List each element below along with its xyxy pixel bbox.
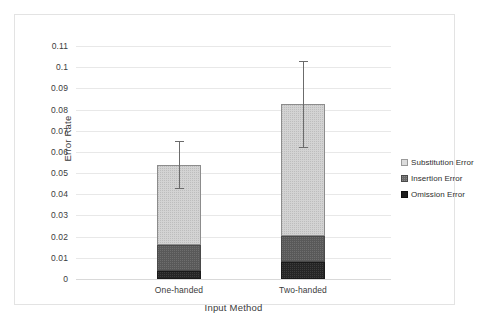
y-tick-label: 0.07 <box>51 126 68 136</box>
gridline <box>76 131 391 132</box>
gridline <box>76 152 391 153</box>
legend-label: Substitution Error <box>411 158 474 167</box>
error-bar-cap-lower <box>175 188 184 189</box>
legend-label: Omission Error <box>411 190 465 199</box>
x-tick-label: One-handed <box>155 285 203 295</box>
legend-swatch-insertion <box>401 175 408 182</box>
bar-segment-insertion <box>281 236 325 262</box>
error-bar-cap-upper <box>299 61 308 62</box>
error-bar-cap-upper <box>175 141 184 142</box>
y-tick-label: 0.04 <box>51 189 68 199</box>
error-bar-stem <box>179 141 180 189</box>
gridline <box>76 88 391 89</box>
legend-swatch-omission <box>401 191 408 198</box>
gridline <box>76 215 391 216</box>
x-axis-title: Input Method <box>76 302 391 313</box>
legend-label: Insertion Error <box>411 174 462 183</box>
y-axis-tick-labels: 00.010.020.030.040.050.060.070.080.090.1… <box>29 46 72 279</box>
gridline <box>76 67 391 68</box>
y-tick-label: 0.08 <box>51 105 68 115</box>
gridline <box>76 46 391 47</box>
y-tick-label: 0.02 <box>51 232 68 242</box>
error-bar-stem <box>303 61 304 148</box>
chart-plot-frame: Error Rate 00.010.020.030.040.050.060.07… <box>14 14 455 305</box>
plot-area <box>76 46 391 279</box>
y-tick-label: 0.05 <box>51 168 68 178</box>
y-tick-label: 0.06 <box>51 147 68 157</box>
y-tick-label: 0.11 <box>52 41 68 51</box>
y-tick-label: 0.03 <box>51 210 68 220</box>
gridline <box>76 237 391 238</box>
gridline <box>76 110 391 111</box>
gridline <box>76 173 391 174</box>
bar-segment-omission <box>157 271 201 279</box>
chart-legend: Substitution ErrorInsertion ErrorOmissio… <box>401 154 479 202</box>
legend-item: Omission Error <box>401 186 479 202</box>
gridline <box>76 194 391 195</box>
y-tick-label: 0.1 <box>56 62 68 72</box>
legend-item: Substitution Error <box>401 154 479 170</box>
gridline <box>76 279 391 280</box>
y-tick-label: 0.09 <box>51 83 68 93</box>
x-tick-label: Two-handed <box>279 285 327 295</box>
y-tick-label: 0.01 <box>51 253 68 263</box>
error-bar-cap-lower <box>299 147 308 148</box>
legend-swatch-substitution <box>401 159 408 166</box>
legend-item: Insertion Error <box>401 170 479 186</box>
bar-segment-omission <box>281 262 325 279</box>
gridline <box>76 258 391 259</box>
bar-segment-insertion <box>157 245 201 270</box>
y-tick-label: 0 <box>63 274 68 284</box>
